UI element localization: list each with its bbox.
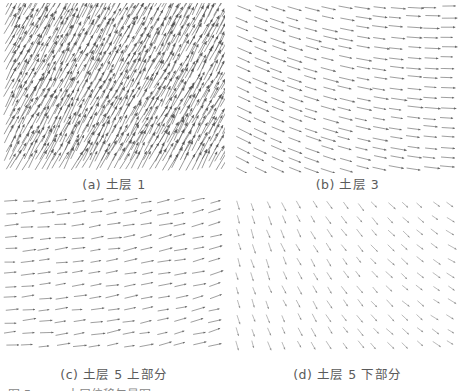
arrow-head-icon — [25, 16, 29, 20]
arrow-head-icon — [299, 89, 302, 91]
arrow-head-icon — [270, 250, 272, 252]
arrow-head-icon — [435, 97, 437, 99]
arrow-head-icon — [454, 5, 456, 7]
arrow-head-icon — [212, 122, 216, 126]
arrow-head-icon — [50, 297, 52, 299]
arrow-head-icon — [368, 159, 371, 161]
arrow-head-icon — [284, 49, 287, 51]
arrow-head-icon — [315, 131, 317, 133]
arrow-head-icon — [202, 209, 204, 211]
arrow-head-icon — [369, 59, 372, 61]
vector-field-plot-c — [3, 198, 225, 358]
panel-d-vector-field — [235, 198, 460, 358]
arrow-head-icon — [202, 258, 204, 260]
arrow-head-icon — [314, 89, 316, 91]
arrow-head-icon — [238, 208, 240, 210]
panel-c-vector-field — [3, 198, 225, 358]
figure-caption-partial: 图 5 … 土层位移矢量图 — [8, 385, 151, 391]
arrow-head-icon — [438, 47, 441, 50]
arrow-head-icon — [435, 77, 437, 79]
arrow-head-icon — [218, 222, 220, 224]
arrow-head-icon — [280, 71, 282, 73]
arrow-head-icon — [51, 331, 53, 333]
arrow-head-icon — [299, 80, 302, 82]
arrow-head-icon — [317, 151, 320, 153]
panel-c-caption: (c) 土层 5 上部分 — [3, 364, 225, 383]
arrow-head-icon — [314, 78, 316, 80]
arrow-head-icon — [399, 17, 401, 19]
arrow-head-icon — [283, 60, 286, 63]
arrow-head-icon — [349, 47, 351, 49]
arrow-head-icon — [120, 132, 123, 136]
arrow-head-icon — [47, 345, 49, 347]
arrow-head-icon — [32, 285, 34, 287]
arrow-head-icon — [451, 77, 453, 79]
panel-d-caption: (d) 土层 5 下部分 — [235, 364, 460, 383]
arrow-head-icon — [333, 140, 336, 142]
arrow-head-icon — [17, 344, 19, 346]
arrow-head-icon — [455, 17, 458, 20]
panel-a-vector-field — [3, 3, 225, 173]
arrow-head-icon — [218, 282, 220, 284]
arrow-head-icon — [31, 237, 33, 239]
arrow-head-icon — [316, 99, 319, 101]
arrow-head-icon — [136, 198, 138, 199]
arrow-head-icon — [267, 307, 269, 309]
arrow-head-icon — [31, 226, 33, 228]
arrow-head-icon — [400, 48, 402, 50]
arrow-head-icon — [14, 286, 16, 288]
arrow-head-icon — [203, 198, 206, 199]
arrow-head-icon — [435, 148, 437, 150]
arrow-head-icon — [13, 261, 15, 263]
arrow-head-icon — [218, 208, 220, 210]
arrow-head-icon — [436, 57, 438, 59]
arrow-head-icon — [451, 117, 453, 119]
vector-arrow — [196, 3, 206, 15]
arrow-head-icon — [299, 38, 301, 40]
vector-field-plot-d — [235, 198, 460, 358]
arrow-head-icon — [420, 27, 423, 29]
arrow-head-icon — [453, 127, 455, 129]
arrow-head-icon — [438, 15, 441, 17]
arrow-head-icon — [32, 200, 34, 202]
arrow-head-icon — [119, 237, 122, 239]
arrow-head-icon — [453, 147, 455, 149]
arrow-head-icon — [281, 89, 284, 91]
arrow-head-icon — [369, 109, 372, 111]
arrow-head-icon — [436, 68, 438, 70]
arrow-head-icon — [455, 46, 458, 48]
arrow-head-icon — [64, 223, 66, 225]
arrow-head-icon — [282, 21, 285, 23]
vector-arrow — [214, 3, 223, 6]
arrow-head-icon — [60, 34, 63, 38]
arrow-head-icon — [183, 198, 185, 199]
arrow-head-icon — [434, 7, 436, 9]
vector-arrow — [114, 3, 123, 15]
arrow-head-icon — [266, 9, 269, 11]
arrow-head-icon — [50, 319, 52, 321]
arrow-head-icon — [254, 251, 256, 253]
arrow-head-icon — [299, 61, 302, 63]
arrow-head-icon — [15, 199, 17, 201]
arrow-head-icon — [283, 30, 286, 32]
arrow-head-icon — [420, 76, 422, 78]
arrow-head-icon — [202, 223, 204, 225]
arrow-head-icon — [14, 296, 16, 298]
vector-field-plot-a — [3, 3, 225, 173]
arrow-head-icon — [300, 120, 303, 122]
arrow-head-icon — [252, 209, 254, 211]
arrow-head-icon — [270, 223, 272, 225]
arrow-head-icon — [73, 112, 77, 116]
arrow-head-icon — [386, 128, 389, 131]
arrow-head-icon — [435, 126, 437, 128]
arrow-head-icon — [201, 295, 203, 297]
arrow-head-icon — [453, 26, 455, 28]
arrow-head-icon — [418, 15, 421, 17]
vector-field-plot-b — [235, 3, 460, 173]
arrow-head-icon — [403, 38, 405, 40]
arrow-head-icon — [15, 213, 17, 215]
arrow-head-icon — [282, 80, 285, 82]
arrow-head-icon — [239, 322, 241, 324]
arrow-head-icon — [434, 86, 436, 88]
arrow-head-icon — [436, 37, 438, 39]
